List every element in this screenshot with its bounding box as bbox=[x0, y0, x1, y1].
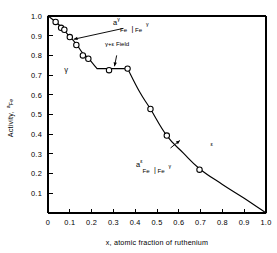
x-tick-label: 0 bbox=[46, 218, 50, 227]
data-point-marker bbox=[148, 106, 153, 111]
x-tick-label: 0.5 bbox=[151, 218, 162, 227]
annot3-sup1: ε bbox=[140, 158, 143, 164]
annot1-sub2: Fe bbox=[135, 26, 143, 33]
data-point-marker bbox=[67, 34, 72, 39]
phase-label-epsilon: ε bbox=[210, 141, 213, 147]
data-point-marker bbox=[106, 67, 111, 72]
annot3-bar: | bbox=[154, 165, 156, 174]
x-tick-label: 0.4 bbox=[130, 218, 141, 227]
y-axis-title-sub: Fe bbox=[8, 99, 14, 105]
x-tick-label: 0.7 bbox=[195, 218, 206, 227]
y-tick-label: 0.5 bbox=[31, 110, 42, 119]
chart-canvas: 00.10.20.30.40.50.60.70.80.91.0 0.10.20.… bbox=[0, 0, 277, 253]
x-tick-label: 0.6 bbox=[173, 218, 184, 227]
data-point-marker bbox=[62, 27, 67, 32]
leader-line-gamma-gamma-activity bbox=[74, 28, 123, 39]
activity-curve bbox=[48, 16, 266, 213]
annot1-sub1: Fe bbox=[120, 26, 128, 33]
data-point-marker bbox=[74, 42, 79, 47]
y-axis-title-main: Activity, bbox=[6, 111, 15, 137]
annot1-sup1: γ bbox=[117, 16, 120, 22]
y-tick-label: 0.1 bbox=[31, 189, 42, 198]
y-tick-label: 0.3 bbox=[31, 150, 42, 159]
annot2-text: γ+ε Field bbox=[105, 40, 129, 47]
annotation-gamma-plus-epsilon-field: γ+ε Field bbox=[105, 40, 129, 47]
y-tick-label: 0.6 bbox=[31, 91, 42, 100]
annot3-sub2: Fe bbox=[158, 167, 166, 174]
axes-frame bbox=[48, 16, 266, 213]
x-tick-label: 0.1 bbox=[64, 218, 75, 227]
leader-arrowhead bbox=[114, 62, 117, 66]
x-tick-label: 0.8 bbox=[217, 218, 228, 227]
x-axis-title: x, atomic fraction of ruthenium bbox=[106, 238, 208, 247]
y-tick-label: 0.4 bbox=[31, 130, 42, 139]
x-axis-tick-labels: 00.10.20.30.40.50.60.70.80.91.0 bbox=[46, 218, 272, 227]
y-axis-ticks bbox=[48, 16, 53, 213]
annot1-bar: | bbox=[132, 24, 134, 33]
y-tick-label: 0.2 bbox=[31, 169, 42, 178]
annot3-sub1: Fe bbox=[143, 167, 151, 174]
y-tick-label: 1.0 bbox=[31, 12, 42, 21]
data-point-marker bbox=[125, 66, 130, 71]
data-point-marker bbox=[53, 19, 58, 24]
x-tick-label: 0.9 bbox=[239, 218, 250, 227]
annotation-gamma-gamma-activity: aγ Fe | Fe γ bbox=[113, 16, 149, 33]
y-axis-title: Activity,aFe bbox=[5, 99, 15, 138]
svg-text:Activity,aFe: Activity,aFe bbox=[5, 99, 15, 138]
y-tick-label: 0.7 bbox=[31, 71, 42, 80]
data-point-marker bbox=[80, 53, 85, 58]
annot1-sup2: γ bbox=[146, 21, 149, 27]
phase-label-gamma: γ bbox=[64, 65, 68, 74]
activity-vs-atomic-fraction-chart: 00.10.20.30.40.50.60.70.80.91.0 0.10.20.… bbox=[0, 0, 277, 253]
x-tick-label: 0.2 bbox=[86, 218, 97, 227]
data-point-marker bbox=[197, 167, 202, 172]
annotation-epsilon-gamma-activity: aε Fe | Fe γ bbox=[136, 158, 172, 174]
annot3-sup2: γ bbox=[169, 163, 172, 169]
x-tick-label: 0.3 bbox=[108, 218, 119, 227]
data-point-marker bbox=[164, 133, 169, 138]
x-axis-ticks bbox=[48, 209, 266, 214]
y-axis-tick-labels: 0.10.20.30.40.50.60.70.80.91.0 bbox=[31, 12, 42, 198]
data-point-marker bbox=[86, 56, 91, 61]
x-tick-label: 1.0 bbox=[260, 218, 271, 227]
y-tick-label: 0.9 bbox=[31, 32, 42, 41]
y-tick-label: 0.8 bbox=[31, 51, 42, 60]
